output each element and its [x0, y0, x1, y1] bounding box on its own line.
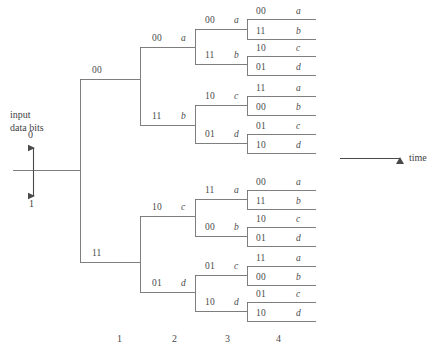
branch-state-l3-7: d [234, 298, 239, 308]
input-caption-line2: data bits [10, 121, 44, 134]
branch-bits-l4-1: 11 [256, 27, 266, 37]
branch-bits-l4-9: 11 [256, 197, 266, 207]
code-tree-figure: input data bits 0 1 time 00 11 00 a 11 b… [0, 0, 439, 359]
branch-bits-l3-6: 01 [205, 262, 215, 272]
branch-state-l4-12: a [296, 254, 301, 264]
branch-bits-l4-11: 01 [256, 234, 266, 244]
branch-bits-l3-3: 01 [205, 130, 215, 140]
branch-state-l4-13: b [296, 273, 301, 283]
branch-bits-l4-13: 00 [256, 273, 266, 283]
branch-bits-l4-3: 01 [256, 63, 266, 73]
branch-state-l3-5: b [234, 223, 239, 233]
branch-bits-l3-1: 11 [205, 51, 215, 61]
branch-state-l3-1: b [234, 51, 239, 61]
branch-state-l4-7: d [296, 141, 301, 151]
branch-state-l2-0: a [181, 34, 186, 44]
branch-bits-l4-2: 10 [256, 44, 266, 54]
branch-bits-l1-0: 00 [92, 66, 102, 76]
branch-bits-l4-12: 11 [256, 254, 266, 264]
branch-bits-l2-3: 01 [152, 279, 162, 289]
branch-bits-l4-7: 10 [256, 141, 266, 151]
branch-state-l2-3: d [181, 279, 186, 289]
branch-state-l4-4: a [296, 84, 301, 94]
branch-state-l4-0: a [296, 7, 301, 17]
branch-state-l4-1: b [296, 27, 301, 37]
branch-bits-l1-1: 11 [92, 249, 102, 259]
branch-bits-l4-5: 00 [256, 103, 266, 113]
input-bit-zero-label: 0 [28, 130, 33, 140]
branch-bits-l3-4: 11 [205, 186, 215, 196]
branch-state-l4-6: c [296, 122, 300, 132]
input-caption-line1: input [10, 108, 44, 121]
branch-bits-l2-0: 00 [152, 34, 162, 44]
branch-state-l4-5: b [296, 103, 301, 113]
branch-bits-l4-0: 00 [256, 7, 266, 17]
branch-state-l4-11: d [296, 234, 301, 244]
branch-bits-l4-15: 10 [256, 309, 266, 319]
branch-bits-l2-1: 11 [152, 112, 162, 122]
branch-state-l4-14: c [296, 290, 300, 300]
branch-state-l3-0: a [234, 16, 239, 26]
time-axis-label: time [409, 152, 427, 163]
branch-state-l3-3: d [234, 130, 239, 140]
branch-state-l4-2: c [296, 44, 300, 54]
stage-label-2: 2 [172, 334, 177, 344]
branch-state-l4-15: d [296, 309, 301, 319]
branch-state-l4-10: c [296, 215, 300, 225]
branch-bits-l4-4: 11 [256, 84, 266, 94]
stage-label-3: 3 [225, 334, 230, 344]
branch-bits-l3-5: 00 [205, 223, 215, 233]
branch-state-l3-6: c [234, 262, 238, 272]
branch-state-l4-9: b [296, 197, 301, 207]
branch-bits-l3-7: 10 [205, 298, 215, 308]
input-data-bits-caption: input data bits [10, 108, 44, 134]
stage-label-1: 1 [117, 334, 122, 344]
branch-state-l4-3: d [296, 63, 301, 73]
input-bit-one-label: 1 [29, 199, 34, 209]
branch-bits-l3-2: 10 [205, 92, 215, 102]
branch-bits-l4-8: 00 [256, 178, 266, 188]
tree-line-art [0, 0, 439, 359]
branch-bits-l3-0: 00 [205, 16, 215, 26]
branch-bits-l4-14: 01 [256, 290, 266, 300]
branch-bits-l4-6: 01 [256, 122, 266, 132]
branch-state-l2-1: b [181, 112, 186, 122]
branch-bits-l4-10: 10 [256, 215, 266, 225]
branch-state-l2-2: c [181, 203, 185, 213]
branch-state-l4-8: a [296, 178, 301, 188]
branch-state-l3-2: c [234, 92, 238, 102]
stage-label-4: 4 [276, 334, 281, 344]
branch-state-l3-4: a [234, 186, 239, 196]
branch-bits-l2-2: 10 [152, 203, 162, 213]
